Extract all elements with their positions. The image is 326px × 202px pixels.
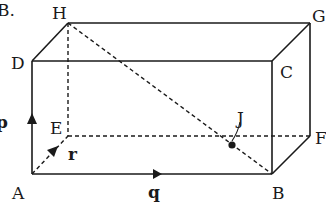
diagonal-HB: [68, 23, 272, 174]
vertex-C: C: [280, 62, 293, 82]
vertex-G: G: [312, 6, 326, 26]
vector-q-label: q: [148, 182, 160, 202]
question-label: B.: [0, 0, 15, 20]
cuboid-diagram: B. H G D C E F A B J p q r: [0, 0, 326, 202]
vertex-E: E: [50, 118, 62, 138]
edge-DH: [32, 23, 68, 61]
vector-p-label: p: [0, 112, 8, 132]
point-J: [228, 141, 235, 148]
edge-AE: [32, 136, 68, 174]
vertex-D: D: [11, 53, 25, 73]
vector-r-label: r: [68, 144, 78, 164]
point-J-label: J: [235, 108, 244, 128]
arrow-r-icon: [47, 146, 58, 157]
edge-BF: [272, 136, 310, 174]
vertex-F: F: [315, 128, 326, 148]
vertex-B: B: [272, 183, 285, 202]
arrow-p-icon: [27, 113, 37, 124]
edge-CG: [272, 23, 310, 61]
arrow-q-icon: [153, 169, 162, 179]
vertex-A: A: [11, 183, 25, 202]
vertex-H: H: [52, 3, 67, 23]
